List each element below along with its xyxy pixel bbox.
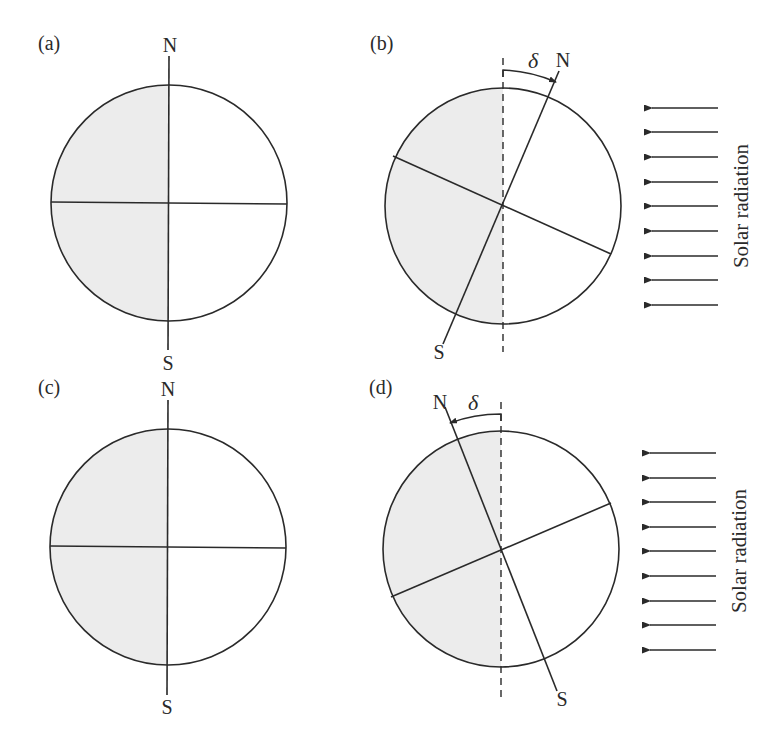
panel-label: (b) [370,32,393,55]
solar-radiation-arrows [650,453,716,650]
south-pole-label: S [161,696,172,718]
solar-radiation-arrows [652,108,718,305]
tilt-angle-symbol: δ [468,390,479,415]
north-pole-label: N [556,49,570,71]
tilt-angle-symbol: δ [528,48,539,73]
night-hemisphere [385,88,503,324]
panel-label: (a) [38,32,60,55]
panel-c: (c) N S [38,376,286,718]
panel-label: (c) [38,376,60,399]
solar-radiation-label: Solar radiation [729,143,753,268]
north-pole-label: N [161,378,175,400]
panel-d: (d) N δ S Solar radiation [369,376,751,710]
tilt-angle-arc [450,414,501,423]
night-hemisphere [383,431,501,667]
solar-radiation-label: Solar radiation [727,488,751,613]
north-pole-label: N [163,34,177,56]
north-pole-label: N [433,391,447,413]
figure-canvas: (a) N S (b) δ N S Solar radiation [0,0,784,746]
south-pole-label: S [433,341,444,363]
panel-label: (d) [369,376,392,399]
south-pole-label: S [162,352,173,374]
panel-b: (b) δ N S Solar radiation [370,32,753,363]
panel-a: (a) N S [38,32,287,374]
south-pole-label: S [556,688,567,710]
